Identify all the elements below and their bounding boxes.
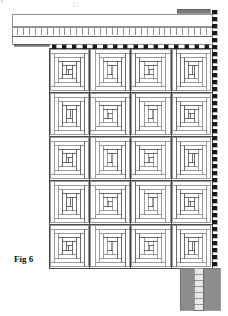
log-strip	[95, 53, 99, 86]
edge-dash	[212, 31, 217, 35]
log-core	[189, 114, 190, 119]
log-strip	[148, 118, 154, 122]
log-strip	[63, 62, 77, 66]
edge-dash	[212, 164, 217, 168]
log-strip	[177, 141, 181, 174]
log-strip	[189, 238, 199, 242]
log-strip	[67, 194, 77, 198]
log-strip	[140, 97, 166, 101]
log-strip	[58, 145, 80, 149]
log-strip	[207, 141, 211, 179]
edge-dash	[212, 108, 217, 112]
log-strip	[185, 106, 199, 110]
edge-dash	[212, 206, 217, 210]
log-strip	[107, 74, 113, 78]
log-strip	[63, 189, 81, 193]
log-core	[107, 114, 108, 119]
log-strip	[72, 154, 76, 167]
log-strip	[103, 206, 113, 210]
log-strip	[194, 154, 198, 167]
log-strip	[203, 233, 207, 262]
edge-dash	[212, 73, 217, 77]
log-strip	[121, 233, 125, 262]
log-strip	[140, 255, 158, 259]
log-strip	[144, 238, 158, 242]
log-strip	[58, 101, 62, 126]
edge-dash	[212, 234, 217, 238]
header-bottom-band	[12, 36, 212, 44]
log-strip	[140, 79, 158, 83]
log-strip	[132, 141, 136, 174]
log-strip	[154, 66, 158, 79]
log-strip	[207, 185, 211, 223]
log-strip	[162, 189, 166, 218]
panel-cell	[49, 48, 90, 92]
log-strip	[148, 206, 154, 210]
log-strip	[117, 150, 121, 171]
log-strip	[132, 93, 136, 135]
log-core	[111, 154, 112, 163]
log-strip	[140, 233, 162, 237]
log-strip	[144, 101, 162, 105]
log-strip	[99, 233, 103, 258]
edge-dash	[212, 17, 217, 21]
log-strip	[68, 70, 72, 75]
log-strip	[144, 150, 158, 154]
log-strip	[132, 181, 136, 223]
log-strip	[140, 189, 144, 214]
log-strip	[132, 53, 136, 86]
log-strip	[95, 101, 99, 126]
log-strip	[177, 229, 181, 262]
log-strip	[185, 167, 199, 171]
log-strip	[91, 49, 95, 91]
log-strip	[140, 145, 162, 149]
log-strip	[76, 106, 80, 127]
connector-tab	[83, 45, 87, 49]
log-strip	[150, 246, 154, 251]
panel-cell	[90, 136, 131, 180]
log-strip	[50, 141, 54, 174]
log-strip	[103, 198, 107, 207]
edge-dash	[212, 94, 217, 98]
log-strip	[148, 66, 154, 70]
panel-cell	[131, 180, 172, 224]
log-strip	[99, 211, 117, 215]
log-strip	[148, 110, 152, 119]
panel-cell	[90, 92, 131, 136]
edge-dash	[212, 150, 217, 154]
log-core	[107, 202, 108, 207]
log-strip	[80, 57, 84, 86]
log-strip	[91, 137, 95, 179]
edge-dash	[212, 262, 217, 266]
log-strip	[125, 53, 129, 91]
log-strip	[148, 154, 154, 158]
log-strip	[181, 101, 203, 105]
log-strip	[107, 162, 113, 166]
panel-cell	[171, 136, 212, 180]
log-strip	[172, 97, 176, 130]
log-strip	[144, 162, 154, 166]
log-strip	[67, 206, 73, 210]
log-strip	[58, 185, 84, 189]
log-strip	[91, 131, 125, 135]
log-strip	[189, 242, 193, 251]
log-strip	[185, 206, 195, 210]
header-top-band	[12, 14, 212, 26]
log-strip	[136, 171, 162, 175]
log-strip	[95, 229, 99, 262]
panel-cell	[171, 48, 212, 92]
log-strip	[166, 185, 170, 223]
panel-cell	[131, 92, 172, 136]
log-strip	[177, 263, 207, 267]
connector-tab	[103, 45, 107, 49]
log-strip	[150, 158, 154, 163]
log-strip	[50, 181, 54, 223]
log-core	[71, 198, 72, 207]
log-strip	[185, 110, 189, 119]
log-strip	[203, 189, 207, 218]
log-strip	[194, 66, 198, 79]
log-strip	[103, 62, 107, 79]
log-strip	[166, 53, 170, 91]
log-strip	[136, 93, 170, 97]
log-strip	[103, 79, 117, 83]
